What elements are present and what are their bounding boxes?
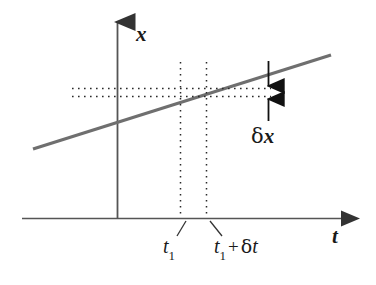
delta-x-variable: x [264,124,275,148]
diagram-canvas [0,0,376,285]
x-of-t-line [33,55,331,149]
tick-label-t1: t1 [163,236,175,256]
tick-label-t1-base: t [163,235,169,257]
leader-line-t1 [177,221,186,236]
tick-label-t2-operator: + [226,236,241,257]
delta-x-delta-t-diagram: x t δx t1 t1+δt [0,0,376,285]
leader-line-t1-plus-delta-t [210,221,222,236]
tick-label-t2-base: t [214,235,220,257]
delta-x-symbol: δ [251,124,264,148]
t-axis-label: t [332,226,338,247]
delta-x-label: δx [251,126,274,147]
tick-label-t2-delta-variable: t [252,235,258,257]
tick-label-t1-plus-delta-t: t1+δt [214,236,258,256]
tick-label-t1-subscript: 1 [169,248,176,263]
x-axis-label: x [136,24,147,45]
tick-label-t2-delta-symbol: δ [241,235,252,257]
tick-label-t2-subscript: 1 [220,248,227,263]
